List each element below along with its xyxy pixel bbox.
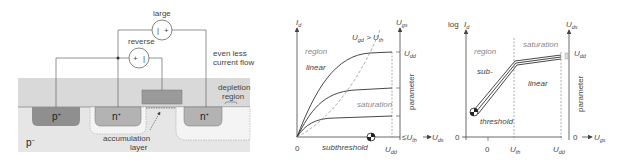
svg-text:≤Uth: ≤Uth [402,133,417,143]
svg-text:|: | [143,54,145,63]
chart-transfer-characteristic: log Id Uds Udd region sub- threshold sat… [448,20,606,155]
svg-text:Ugs: Ugs [396,18,408,28]
svg-text:linear: linear [306,63,326,72]
svg-text:0: 0 [485,145,490,154]
gate-electrode [142,90,182,104]
svg-text:linear: linear [528,79,548,88]
oxide-layer [18,78,250,107]
svg-text:parameter: parameter [407,73,416,110]
svg-text:saturation: saturation [523,40,559,49]
svg-text:Uds: Uds [432,133,444,143]
mosfet-cross-section: | + large + | reverse even less current … [18,9,255,152]
svg-text:log: log [448,20,459,29]
svg-text:threshold: threshold [480,117,513,126]
svg-text:Udd: Udd [553,145,566,155]
accumulation-label-1: accumulation [103,134,150,143]
svg-text:sub-: sub- [477,67,493,76]
curve-ugs-low [297,116,392,137]
depletion-label-1: depletion [218,83,250,92]
svg-text:saturation: saturation [357,100,393,109]
voltage-source-large: | + large [152,9,172,40]
svg-text:parameter: parameter [576,75,585,112]
curve-ugs-mid [297,88,392,137]
svg-text:+: + [133,54,138,63]
svg-text:|: | [157,26,159,35]
diagram-canvas: | + large + | reverse even less current … [0,0,625,165]
note-current-2: current flow [213,58,255,67]
svg-text:Uth: Uth [510,145,520,155]
note-current-1: even less [213,49,247,58]
operating-point-icon [367,133,375,141]
svg-text:Udd: Udd [574,49,587,59]
svg-text:region: region [474,47,497,56]
boundary-label: Ugd > Uth [352,33,383,43]
svg-text:region: region [305,47,328,56]
accumulation-label-2: layer [130,143,148,152]
curve-uds-mid [476,57,561,112]
depletion-label-2: region [222,92,244,101]
chart-output-characteristic: Id Ugs Udd Ugd > Uth region linear satur… [295,18,444,155]
svg-text:subthreshold: subthreshold [322,143,368,152]
svg-text:Id: Id [296,18,302,28]
junction-dot [117,57,120,60]
svg-text:Uds: Uds [566,20,578,30]
svg-text:Udd: Udd [385,145,398,155]
label-large: large [153,9,171,18]
label-reverse: reverse [128,37,155,46]
svg-text:0: 0 [455,133,460,142]
operating-point-icon-2 [470,108,478,116]
svg-text:Udd: Udd [404,49,417,59]
svg-text:0: 0 [573,133,578,142]
voltage-source-reverse: + | reverse [128,37,155,68]
svg-text:0: 0 [295,144,300,153]
svg-text:+: + [164,26,169,35]
svg-text:Ugs: Ugs [594,133,606,143]
svg-text:Id: Id [464,20,470,30]
